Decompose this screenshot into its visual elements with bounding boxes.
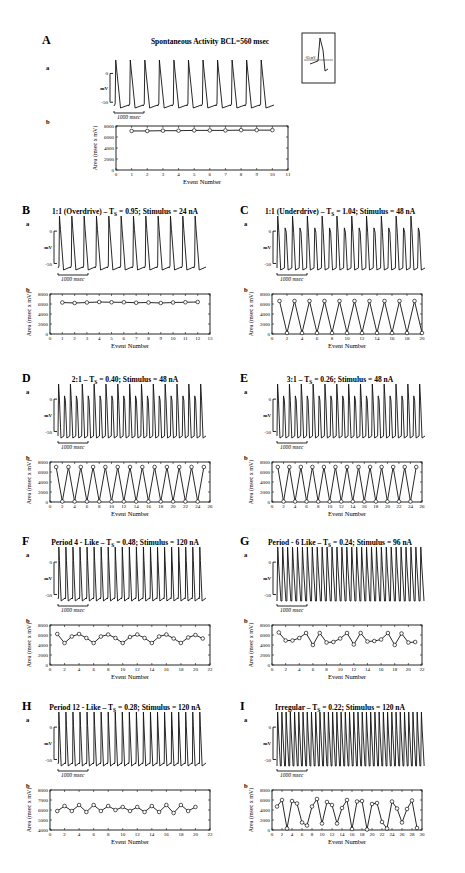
area-series-line (62, 302, 197, 303)
y-axis-label: Area (msec x mV) (26, 292, 33, 336)
data-point (150, 804, 154, 808)
x-tick-label: 3 (162, 172, 165, 177)
time-scale-bar (114, 111, 144, 113)
time-scale-label: 1000 msec (61, 772, 85, 778)
x-axis-label: Event Number (328, 838, 367, 845)
x-tick-label: 6 (301, 832, 304, 837)
sublabel-a: a (46, 64, 50, 71)
action-potential-trace (58, 216, 206, 270)
x-tick-label: 8 (98, 504, 101, 509)
data-point (300, 331, 304, 335)
data-point (121, 805, 125, 809)
x-tick-label: 24 (408, 504, 414, 509)
data-point (351, 500, 355, 504)
x-tick-label: 12 (135, 832, 141, 837)
x-tick-label: 6 (86, 504, 89, 509)
voltage-unit-label: mV (100, 86, 108, 91)
area-series-line (278, 467, 416, 502)
data-point (395, 807, 399, 811)
x-tick-label: 20 (420, 336, 426, 341)
data-point (383, 299, 387, 303)
data-point (202, 465, 206, 469)
data-point (391, 465, 395, 469)
data-point (297, 636, 301, 640)
y-tick-label: 6000 (260, 470, 271, 475)
data-point (330, 331, 334, 335)
y-tick-label: 4000 (38, 643, 49, 648)
x-tick-label: 2 (73, 336, 76, 341)
data-point (122, 300, 126, 304)
voltage-unit-label: mV (263, 245, 271, 250)
data-point (290, 799, 294, 803)
data-point (61, 500, 65, 504)
area-series-line (56, 467, 204, 502)
time-scale-label: 1000 msec (280, 607, 304, 613)
data-point (121, 641, 125, 645)
voltage-bottom-label: -50 (264, 430, 271, 435)
data-point (339, 500, 343, 504)
data-point (153, 465, 157, 469)
data-point (135, 805, 139, 809)
y-tick-label: 6000 (38, 633, 49, 638)
y-tick-label: 4000 (38, 480, 49, 485)
panel-title: 3:1 – TS = 0.26; Stimulus = 48 nA (287, 375, 394, 385)
data-point (325, 800, 329, 804)
data-point (407, 641, 411, 645)
voltage-scale-bracket (54, 562, 57, 594)
panel-letter: D (22, 371, 31, 385)
voltage-unit-label: mV (44, 413, 52, 418)
data-point (345, 465, 349, 469)
data-point (357, 465, 361, 469)
data-point (70, 635, 74, 639)
data-point (413, 640, 417, 644)
data-point (171, 301, 175, 305)
data-point (172, 811, 176, 815)
x-tick-label: 22 (420, 667, 426, 672)
data-point (410, 799, 414, 803)
x-tick-label: 0 (49, 336, 52, 341)
voltage-unit-label: mV (44, 576, 52, 581)
x-tick-label: 7 (224, 172, 227, 177)
x-tick-label: 24 (195, 504, 201, 509)
x-tick-label: 8 (311, 832, 314, 837)
y-tick-label: 4000 (104, 146, 115, 151)
x-tick-label: 12 (339, 504, 345, 509)
x-tick-label: 1 (61, 336, 64, 341)
x-tick-label: 4 (294, 504, 297, 509)
panel-h: HPeriod 12 - Like – TS = 0.28; Stimulus … (0, 698, 232, 858)
panel-letter: A (42, 33, 51, 47)
y-tick-label: 2000 (38, 653, 49, 658)
x-tick-label: 8 (107, 667, 110, 672)
data-point (280, 798, 284, 802)
x-tick-label: 8 (147, 336, 150, 341)
data-point (201, 637, 205, 641)
data-point (405, 807, 409, 811)
time-scale-label: 1000 msec (61, 444, 85, 450)
data-point (305, 500, 309, 504)
action-potential-trace (114, 60, 274, 108)
data-point (318, 631, 322, 635)
x-tick-label: 11 (183, 336, 188, 341)
x-tick-label: 6 (312, 667, 315, 672)
x-axis-label: Event Number (111, 673, 150, 680)
data-point (363, 500, 367, 504)
y-tick-label: 6000 (38, 470, 49, 475)
sublabel-a: a (26, 388, 30, 395)
y-tick-label: 6000 (260, 798, 271, 803)
y-tick-label: 6000 (260, 302, 271, 307)
data-point (379, 638, 383, 642)
x-tick-label: 22 (208, 667, 214, 672)
x-tick-label: 2 (146, 172, 149, 177)
voltage-unit-label: mV (263, 413, 271, 418)
data-point (122, 500, 126, 504)
data-point (311, 643, 315, 647)
data-point (194, 805, 198, 809)
data-point (285, 331, 289, 335)
data-point (184, 300, 188, 304)
data-point (353, 299, 357, 303)
x-tick-label: 4 (301, 336, 304, 341)
data-point (190, 465, 194, 469)
x-tick-label: 12 (121, 504, 127, 509)
y-tick-label: 4000 (260, 808, 271, 813)
y-tick-label: 2000 (260, 818, 271, 823)
